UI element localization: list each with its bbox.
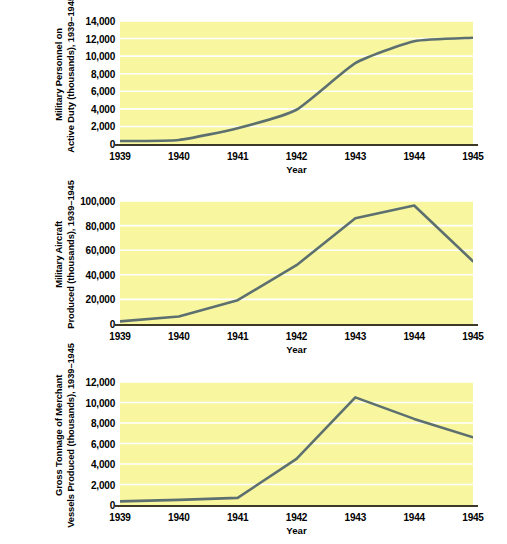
x-tick-label: 1945 [462, 331, 483, 342]
x-tick-label: 1944 [403, 151, 424, 162]
x-tick-label: 1943 [345, 151, 366, 162]
x-tick-label: 1945 [462, 151, 483, 162]
x-tick-label: 1942 [286, 512, 307, 523]
plot-area-military-personnel [120, 21, 473, 144]
x-tick-label: 1940 [168, 331, 189, 342]
y-tick-label: 100,000 [80, 196, 115, 207]
data-series-line [120, 397, 473, 501]
x-tick-label: 1943 [345, 512, 366, 523]
x-axis-title-merchant-tonnage: Year [286, 525, 306, 536]
x-tick-label: 1942 [286, 331, 307, 342]
gridlines [120, 382, 473, 485]
chart-panel-military-aircraft: Military AircraftProduced (thousands), 1… [0, 180, 507, 360]
y-tick-label: 2,000 [91, 479, 115, 490]
plot-area-merchant-tonnage [120, 382, 473, 505]
x-tick-label: 1940 [168, 512, 189, 523]
x-tick-label: 1942 [286, 151, 307, 162]
y-tick-label: 10,000 [86, 51, 115, 62]
x-tick-label: 1945 [462, 512, 483, 523]
y-tick-label: 14,000 [86, 16, 115, 27]
plot-area-military-aircraft [120, 201, 473, 324]
y-tick-label: 80,000 [86, 220, 115, 231]
y-axis-ticks-military-personnel: 02,0004,0006,0008,00010,00012,00014,000 [52, 0, 115, 148]
x-axis-title-military-personnel: Year [286, 164, 306, 175]
x-tick-label: 1943 [345, 331, 366, 342]
y-tick-label: 6,000 [91, 86, 115, 97]
y-axis-ticks-military-aircraft: 020,00040,00060,00080,000100,000 [52, 180, 115, 328]
y-axis-ticks-merchant-tonnage: 02,0004,0006,0008,00010,00012,000 [52, 361, 115, 509]
chart-panel-merchant-tonnage: Gross Tonnage of MerchantVessels Produce… [0, 361, 507, 541]
y-tick-label: 12,000 [86, 33, 115, 44]
y-tick-label: 4,000 [91, 103, 115, 114]
y-tick-label: 12,000 [86, 377, 115, 388]
x-tick-label: 1941 [227, 331, 248, 342]
x-tick-label: 1944 [403, 331, 424, 342]
x-tick-label: 1940 [168, 151, 189, 162]
x-axis-baseline-military-aircraft [115, 324, 478, 326]
x-tick-label: 1941 [227, 151, 248, 162]
x-tick-label: 1944 [403, 512, 424, 523]
data-series-line [120, 38, 473, 141]
x-tick-label: 1939 [109, 151, 130, 162]
x-tick-label: 1939 [109, 512, 130, 523]
y-tick-label: 40,000 [86, 269, 115, 280]
wwii-production-figure: Military Personnel onActive Duty (thousa… [0, 0, 507, 544]
y-tick-label: 10,000 [86, 397, 115, 408]
x-axis-baseline-merchant-tonnage [115, 505, 478, 507]
chart-svg-military-aircraft [120, 201, 473, 324]
gridlines [120, 201, 473, 299]
x-axis-baseline-military-personnel [115, 144, 478, 146]
y-tick-label: 4,000 [91, 459, 115, 470]
chart-svg-military-personnel [120, 21, 473, 144]
chart-svg-merchant-tonnage [120, 382, 473, 505]
chart-panel-military-personnel: Military Personnel onActive Duty (thousa… [0, 0, 507, 180]
y-tick-label: 8,000 [91, 418, 115, 429]
data-series-line [120, 206, 473, 322]
x-axis-title-military-aircraft: Year [286, 344, 306, 355]
y-tick-label: 6,000 [91, 438, 115, 449]
y-tick-label: 8,000 [91, 68, 115, 79]
y-tick-label: 20,000 [86, 294, 115, 305]
x-tick-label: 1939 [109, 331, 130, 342]
y-tick-label: 60,000 [86, 245, 115, 256]
x-tick-label: 1941 [227, 512, 248, 523]
y-tick-label: 2,000 [91, 121, 115, 132]
